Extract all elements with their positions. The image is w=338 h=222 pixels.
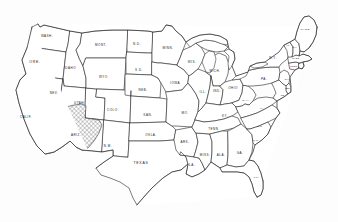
state-shape-nebraska <box>125 74 161 98</box>
state-shape-wyoming <box>83 58 126 90</box>
state-shape-north-dakota <box>127 30 153 53</box>
state-shape-oklahoma <box>129 122 176 141</box>
state-shape-alabama <box>210 131 228 168</box>
state-shape-south-dakota <box>126 52 152 75</box>
us-outline-map: WASH.ORE.CALIF.IDAHONEV.UTAHARIZ.MONT.WY… <box>0 0 338 222</box>
us-map-container: WASH.ORE.CALIF.IDAHONEV.UTAHARIZ.MONT.WY… <box>0 0 338 222</box>
